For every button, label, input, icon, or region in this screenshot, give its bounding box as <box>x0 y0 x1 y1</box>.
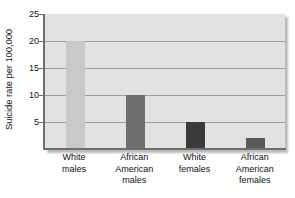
x-axis-label-line: American <box>225 164 285 176</box>
y-axis-tick-label: 20 <box>29 36 39 46</box>
bar <box>126 95 145 149</box>
x-axis-label-line: White <box>44 152 104 164</box>
y-axis-tick-mark <box>39 14 44 15</box>
y-axis-tick-mark <box>39 41 44 42</box>
bar <box>66 41 85 149</box>
x-axis-category-label: Whitemales <box>44 152 104 175</box>
y-axis-tick-label: 25 <box>29 9 39 19</box>
y-axis-tick-label: 10 <box>29 90 39 100</box>
y-axis-tick-labels: 510152025 <box>18 0 42 158</box>
x-axis-category-label: Whitefemales <box>165 152 225 175</box>
y-axis-tick-mark <box>39 122 44 123</box>
x-axis-category-labels: WhitemalesAfricanAmericanmalesWhitefemal… <box>44 152 285 198</box>
y-axis-title: Suicide rate per 100,000 <box>0 0 18 158</box>
x-axis-label-line: African <box>225 152 285 164</box>
x-axis-label-line: White <box>165 152 225 164</box>
y-axis-tick-mark <box>39 95 44 96</box>
x-axis-line <box>44 148 286 150</box>
x-axis-label-line: African <box>104 152 164 164</box>
x-axis-category-label: AfricanAmericanfemales <box>225 152 285 187</box>
x-axis-label-line: males <box>104 175 164 187</box>
y-axis-title-text: Suicide rate per 100,000 <box>4 28 15 129</box>
bar-chart: Suicide rate per 100,000 510152025 White… <box>0 0 295 198</box>
x-axis-label-line: males <box>44 164 104 176</box>
x-axis-category-label: AfricanAmericanmales <box>104 152 164 187</box>
x-axis-label-line: females <box>165 164 225 176</box>
plot-area <box>44 14 285 149</box>
y-axis-tick-label: 15 <box>29 63 39 73</box>
x-axis-label-line: American <box>104 164 164 176</box>
x-axis-label-line: females <box>225 175 285 187</box>
y-axis-line <box>43 14 45 150</box>
bar <box>186 122 205 149</box>
y-axis-tick-mark <box>39 68 44 69</box>
